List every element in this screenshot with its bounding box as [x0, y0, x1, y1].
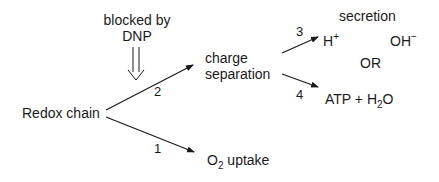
h-plus-node: H+ [323, 33, 339, 49]
blocked-by-label: blocked by DNP [96, 12, 178, 44]
arrow-1 [106, 117, 194, 152]
dnp-text: DNP [96, 28, 178, 44]
separation-text: separation [205, 66, 270, 82]
o2-uptake-node: O2 uptake [207, 152, 269, 168]
charge-separation-node: charge separation [205, 50, 270, 82]
double-arrow-down-icon [128, 47, 144, 80]
charge-text: charge [205, 50, 270, 66]
redox-chain-node: Redox chain [22, 105, 100, 121]
edge-label-1: 1 [154, 142, 161, 156]
arrow-3 [282, 37, 318, 53]
edge-label-3: 3 [296, 25, 303, 39]
arrow-2 [106, 65, 193, 110]
edge-label-2: 2 [154, 85, 161, 99]
atp-h2o-node: ATP + H2O [325, 91, 393, 107]
blocked-by-text: blocked by [96, 12, 178, 28]
arrow-4 [282, 74, 318, 87]
edge-label-4: 4 [296, 88, 303, 102]
oh-minus-node: OH− [390, 33, 417, 49]
or-label: OR [360, 55, 381, 71]
secretion-label: secretion [339, 8, 396, 24]
